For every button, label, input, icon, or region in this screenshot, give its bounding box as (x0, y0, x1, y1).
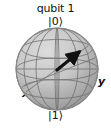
bloch-sphere-graphic (0, 0, 111, 129)
bloch-sphere-figure: qubit 1 |0⟩ |1⟩ x y (0, 0, 111, 129)
